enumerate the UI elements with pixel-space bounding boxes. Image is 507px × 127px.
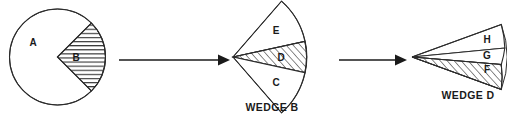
arrow-2-head (395, 55, 407, 66)
region-a-label: A (29, 37, 36, 48)
region-e-label: E (273, 25, 280, 36)
region-h-label: H (483, 34, 490, 45)
wedge-subdivision-diagram: A B E D C WEDGE B (0, 0, 507, 127)
region-d-label: D (277, 52, 284, 63)
stage-2-wedge-b-group: E D C WEDGE B (233, 1, 307, 113)
stage-1-circle-group: A B (9, 9, 105, 105)
wedge-b-caption: WEDGE B (246, 101, 299, 113)
arrow-1 (119, 55, 230, 66)
region-c-label: C (272, 77, 279, 88)
region-f-label: F (484, 64, 490, 75)
region-g-label: G (483, 50, 491, 61)
stage-3-wedge-d-group: H G F WEDGE D (412, 25, 507, 101)
region-b-label: B (72, 52, 79, 63)
wedge-d-caption: WEDGE D (442, 89, 495, 101)
diagram-canvas: A B E D C WEDGE B (0, 0, 507, 127)
arrow-2 (339, 55, 407, 66)
arrow-1-head (218, 55, 230, 66)
